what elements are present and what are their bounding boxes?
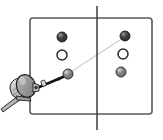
outer-frame	[30, 18, 152, 114]
diagram-canvas	[0, 0, 163, 140]
marker-right-bottom-gray	[116, 67, 126, 77]
diagram-svg	[0, 0, 163, 140]
marker-left-top-filled	[57, 32, 67, 42]
marker-right-middle-hollow	[118, 49, 128, 59]
marker-left-bottom-gray	[63, 69, 73, 79]
marker-left-middle-hollow	[57, 50, 67, 60]
device-aperture-icon	[35, 86, 38, 89]
marker-right-top-filled	[120, 31, 130, 41]
